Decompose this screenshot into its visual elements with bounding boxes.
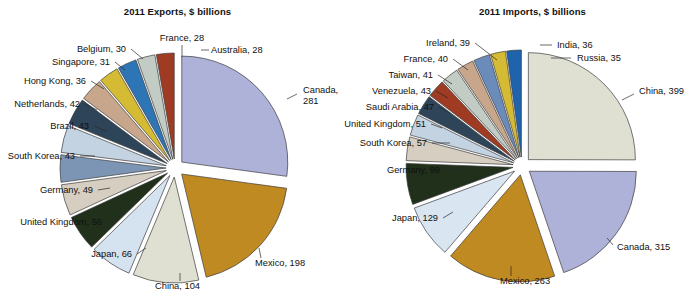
pie-label-mexico: Mexico, 263 — [500, 276, 550, 286]
pie-label-united-kingdom: United Kingdom, 51 — [344, 119, 426, 129]
pie-slice-china — [528, 53, 635, 160]
pie-label-india: India, 36 — [557, 40, 593, 50]
pie-label-venezuela: Venezuela, 43 — [372, 86, 431, 96]
pie-label-russia: Russia, 35 — [577, 53, 621, 63]
pie-label-ireland: Ireland, 39 — [426, 38, 470, 48]
pie-label-china: China, 399 — [639, 86, 684, 96]
pie-label-germany: Germany, 99 — [387, 165, 440, 175]
pie-label-france: France, 40 — [404, 54, 448, 64]
exports-imports-pie-figure: 2011 Exports, $ billions Canada,281Mexic… — [0, 0, 694, 298]
pie-label-taiwan: Taiwan, 41 — [389, 70, 433, 80]
pie-label-canada: Canada, 315 — [617, 242, 670, 252]
imports-pie-svg: China, 399Canada, 315Mexico, 263Japan, 1… — [0, 0, 694, 298]
leader-line-china — [622, 94, 634, 100]
pie-label-japan: Japan, 129 — [392, 213, 438, 223]
pie-label-south-korea: South Korea, 57 — [360, 138, 427, 148]
pie-label-saudi-arabia: Saudi Arabia, 47 — [366, 102, 434, 112]
